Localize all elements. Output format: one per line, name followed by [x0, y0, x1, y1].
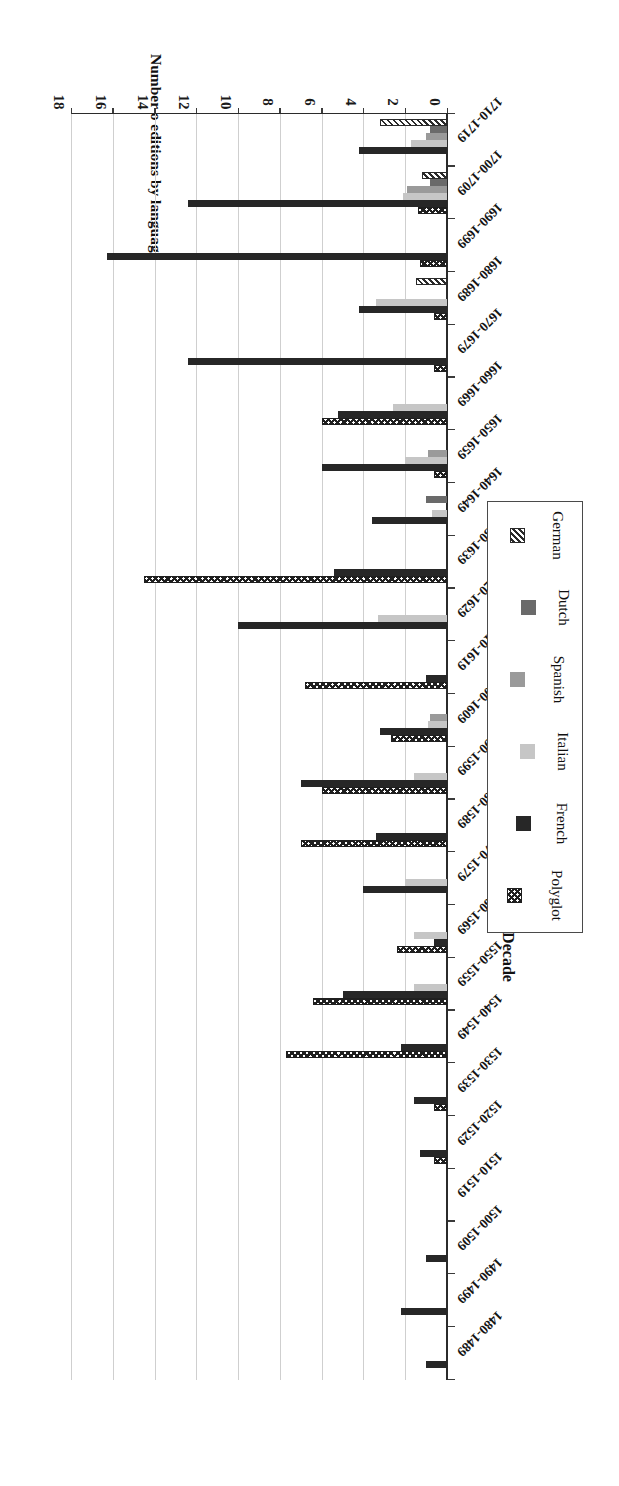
bar-group	[71, 378, 447, 431]
bar-polyglot	[397, 946, 447, 953]
bar-group	[71, 272, 447, 325]
bar-italian	[414, 984, 447, 991]
bar-french	[434, 939, 447, 946]
legend: PolyglotFrenchItalianSpanishDutchGerman	[487, 501, 583, 933]
bar-french	[359, 306, 447, 313]
bar-group	[71, 853, 447, 906]
bar-french	[188, 200, 447, 207]
category-tick	[448, 376, 455, 377]
category-tick	[448, 1273, 455, 1274]
legend-item: Polyglot	[486, 860, 582, 932]
value-ticklabel: 2	[384, 98, 401, 106]
category-tick	[448, 218, 455, 219]
bar-italian	[432, 510, 447, 517]
category-tick	[448, 1062, 455, 1063]
category-tick	[448, 851, 455, 852]
bar-group	[71, 220, 447, 273]
bar-italian	[393, 404, 447, 411]
bar-group	[71, 536, 447, 589]
bar-german	[422, 172, 447, 179]
bar-polyglot	[434, 471, 447, 478]
bar-french	[420, 1150, 447, 1157]
legend-item: Italian	[486, 716, 582, 788]
light-grey-swatch	[520, 745, 535, 760]
bar-polyglot	[434, 1104, 447, 1111]
category-tick	[448, 693, 455, 694]
bar-french	[301, 780, 447, 787]
bar-italian	[412, 140, 448, 147]
bar-french	[238, 622, 447, 629]
category-tick	[448, 957, 455, 958]
bar-group	[71, 1327, 447, 1380]
bar-group	[71, 642, 447, 695]
bar-french	[338, 411, 447, 418]
hatched-swatch	[510, 529, 525, 544]
value-axis-line	[72, 113, 448, 114]
legend-item: German	[486, 500, 582, 572]
bar-french	[343, 991, 447, 998]
bar-italian	[414, 773, 447, 780]
bar-polyglot	[434, 1157, 447, 1164]
bar-italian	[405, 457, 447, 464]
bar-group	[71, 800, 447, 853]
bar-group	[71, 325, 447, 378]
bar-group	[71, 483, 447, 536]
category-tick	[448, 1220, 455, 1221]
category-tick	[448, 271, 455, 272]
bar-group	[71, 694, 447, 747]
category-tick	[448, 1168, 455, 1169]
dark-grey-swatch	[521, 601, 536, 616]
bar-german	[380, 119, 447, 126]
bar-italian	[405, 879, 447, 886]
category-tick	[448, 324, 455, 325]
bar-group	[71, 1011, 447, 1064]
bar-polyglot	[420, 260, 447, 267]
category-tick	[448, 535, 455, 536]
black-swatch	[516, 817, 531, 832]
legend-item: Dutch	[486, 572, 582, 644]
bar-french	[426, 1255, 447, 1262]
legend-label: French	[553, 803, 570, 845]
bar-group	[71, 114, 447, 167]
bar-french	[401, 1044, 447, 1051]
category-tick	[448, 798, 455, 799]
bar-group	[71, 431, 447, 484]
legend-label: Spanish	[550, 656, 567, 704]
value-ticklabel: 0	[426, 98, 443, 106]
bar-polyglot	[305, 682, 447, 689]
value-ticklabel: 10	[217, 95, 234, 110]
bar-german	[416, 278, 447, 285]
bar-french	[372, 517, 447, 524]
legend-item: French	[486, 788, 582, 860]
bar-group	[71, 1275, 447, 1328]
value-ticklabel: 12	[175, 95, 192, 110]
category-tick	[448, 640, 455, 641]
bar-chart-figure: 024681012141618 Number o editions by lan…	[0, 0, 619, 1486]
bar-group	[71, 589, 447, 642]
legend-label: Polyglot	[548, 871, 565, 922]
bar-french	[359, 147, 447, 154]
bar-group	[71, 167, 447, 220]
bar-french	[380, 728, 447, 735]
bar-group	[71, 958, 447, 1011]
bar-polyglot	[322, 418, 447, 425]
bar-italian	[403, 193, 447, 200]
bar-dutch	[430, 126, 447, 133]
bar-italian	[428, 721, 447, 728]
bar-spanish	[426, 133, 447, 140]
bar-spanish	[430, 714, 447, 721]
legend-label: German	[549, 512, 566, 560]
bar-polyglot	[144, 576, 447, 583]
bar-group	[71, 1064, 447, 1117]
bar-french	[426, 675, 447, 682]
bar-polyglot	[391, 735, 447, 742]
bar-italian	[414, 932, 447, 939]
bar-group	[71, 1222, 447, 1275]
category-tick	[448, 1379, 455, 1380]
bar-polyglot	[418, 207, 447, 214]
value-ticklabel: 6	[301, 98, 318, 106]
bar-polyglot	[301, 840, 447, 847]
rotated-figure: 024681012141618 Number o editions by lan…	[0, 0, 619, 1486]
bar-dutch	[430, 179, 447, 186]
bar-group	[71, 1169, 447, 1222]
